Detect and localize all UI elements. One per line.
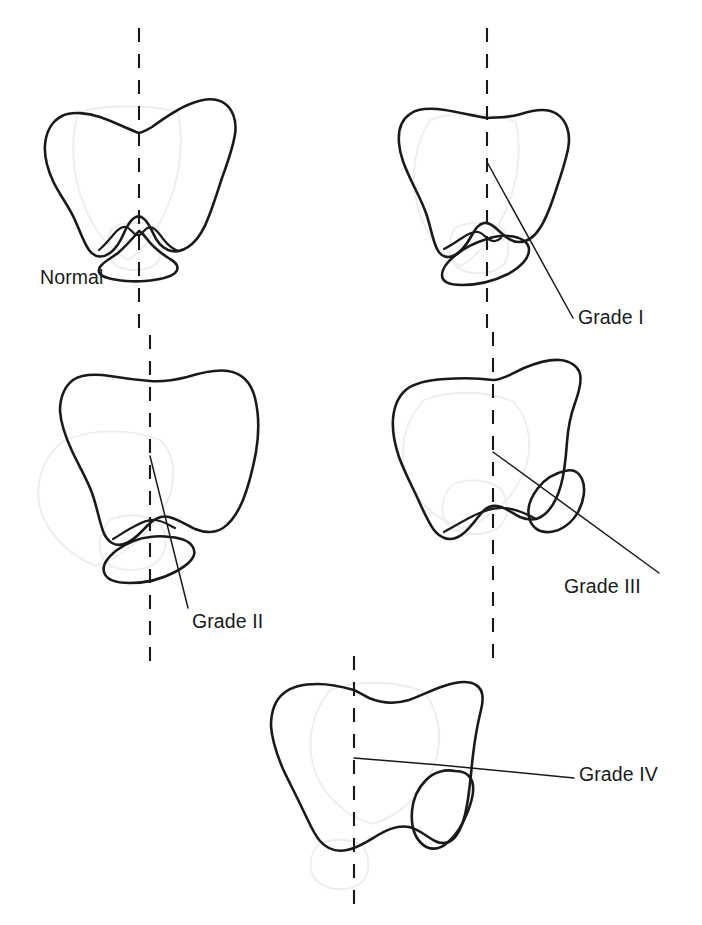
- ghost-outline-grade-2: [38, 431, 173, 566]
- bone-outline-grade-3-femur: [393, 360, 581, 539]
- trochlear-ridge-grade-3: [444, 508, 536, 532]
- leader-line-grade-2: [150, 456, 188, 608]
- panel-label-grade-4: Grade IV: [579, 765, 658, 785]
- panel-label-normal: Normal: [40, 268, 103, 288]
- leader-line-grade-3: [493, 452, 659, 573]
- panel-grade-1: [399, 28, 573, 340]
- leader-line-grade-4: [354, 758, 574, 778]
- panel-label-grade-3: Grade III: [564, 577, 641, 597]
- figure-canvas: [0, 0, 702, 925]
- panel-grade-4: [271, 656, 574, 905]
- patellar-luxation-figure: Normal Grade I Grade II Grade III Grade …: [0, 0, 702, 925]
- ghost-outline-grade-4: [311, 683, 440, 824]
- panel-label-grade-2: Grade II: [192, 612, 263, 632]
- patella-grade-4: [412, 770, 473, 848]
- ghost-outline-grade-4-patella: [311, 840, 369, 889]
- panel-label-grade-1: Grade I: [578, 308, 644, 328]
- panel-grade-3: [393, 332, 659, 665]
- bone-outline-grade-2-femur: [60, 370, 258, 544]
